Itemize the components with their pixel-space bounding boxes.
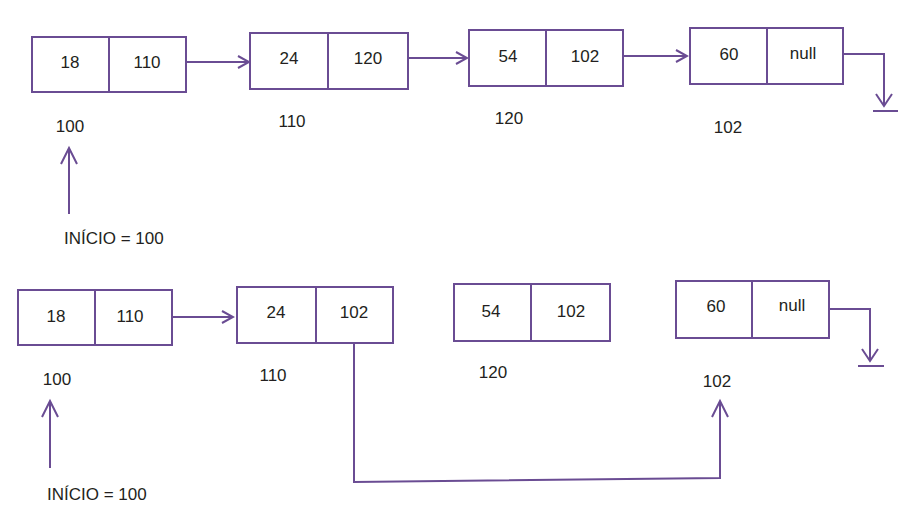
node-next: 120 bbox=[354, 49, 382, 68]
node-next: 102 bbox=[557, 302, 585, 321]
node-top-3: 60 null 102 bbox=[690, 28, 843, 137]
node-address: 110 bbox=[259, 366, 286, 385]
node-next: 102 bbox=[571, 47, 599, 66]
start-pointer: INÍCIO = 100 bbox=[61, 148, 164, 248]
start-pointer: INÍCIO = 100 bbox=[42, 401, 147, 504]
node-value: 54 bbox=[482, 302, 501, 321]
node-top-2: 54 102 120 bbox=[469, 30, 623, 128]
ground-icon bbox=[829, 309, 884, 366]
start-label: INÍCIO = 100 bbox=[64, 229, 164, 248]
node-value: 54 bbox=[499, 47, 518, 66]
node-value: 18 bbox=[61, 53, 80, 72]
node-address: 120 bbox=[479, 363, 507, 382]
node-next: null bbox=[790, 44, 816, 63]
node-value: 18 bbox=[47, 307, 66, 326]
node-address: 100 bbox=[56, 117, 84, 136]
node-next: null bbox=[779, 296, 805, 315]
node-next: 110 bbox=[116, 307, 143, 326]
node-value: 60 bbox=[707, 297, 726, 316]
start-label: INÍCIO = 100 bbox=[47, 485, 147, 504]
bypass-link bbox=[354, 343, 728, 482]
ground-icon bbox=[843, 54, 898, 111]
node-address: 110 bbox=[278, 112, 305, 131]
node-value: 24 bbox=[280, 49, 299, 68]
node-address: 102 bbox=[714, 118, 742, 137]
node-top-1: 24 120 110 bbox=[250, 33, 408, 131]
node-bottom-1: 24 102 110 bbox=[237, 287, 393, 385]
node-address: 100 bbox=[43, 370, 71, 389]
top-list: 18 110 100 24 120 110 54 102 120 60 bbox=[32, 28, 898, 248]
node-next: 110 bbox=[133, 53, 160, 72]
node-top-0: 18 110 100 bbox=[32, 37, 186, 136]
linked-list-diagram: 18 110 100 24 120 110 54 102 120 60 bbox=[0, 0, 911, 531]
node-address: 120 bbox=[495, 109, 523, 128]
node-value: 60 bbox=[720, 45, 739, 64]
bottom-list: 18 110 100 24 102 110 54 102 120 bbox=[18, 281, 884, 504]
node-address: 102 bbox=[703, 372, 731, 391]
node-value: 24 bbox=[267, 303, 286, 322]
node-bottom-0: 18 110 100 bbox=[18, 290, 172, 389]
node-bottom-2: 54 102 120 bbox=[454, 284, 610, 382]
node-next: 102 bbox=[340, 303, 368, 322]
node-bottom-3: 60 null 102 bbox=[676, 281, 829, 391]
